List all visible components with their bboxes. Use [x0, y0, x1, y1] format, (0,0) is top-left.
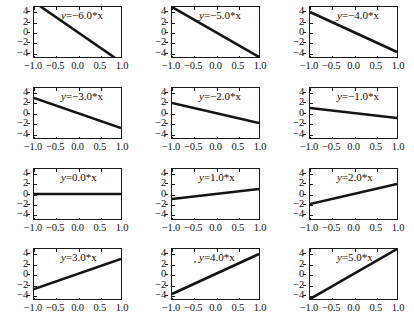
y-tick-mark-outer [303, 183, 306, 184]
x-tick-mark-bottom [101, 218, 102, 220]
y-axis-ticklabels: −4−2024 [0, 248, 30, 300]
y-tick-mark [172, 23, 175, 24]
y-tick-mark-outer [27, 204, 30, 205]
x-tick-mark-bottom [34, 218, 35, 220]
x-tick-mark [194, 7, 195, 10]
y-tick-mark [310, 54, 313, 55]
y-tick-mark-outer [303, 11, 306, 12]
y-tick-mark [172, 286, 175, 287]
y-tick-mark [172, 174, 175, 175]
x-tick-label: 0.0 [347, 141, 360, 152]
y-tick-mark [310, 174, 313, 175]
plot-panel-5: y=−2.0*x−4−2024−1.0−0.50.00.51.0 [138, 81, 276, 162]
x-tick-label: 1.0 [254, 222, 267, 233]
y-tick-mark-outer [27, 274, 30, 275]
data-line [34, 98, 121, 128]
y-tick-mark-outer [303, 113, 306, 114]
y-tick-mark [172, 205, 175, 206]
x-axis-ticklabels: −1.0−0.50.00.51.0 [309, 221, 398, 235]
x-tick-mark-bottom [217, 56, 218, 58]
x-tick-label: −1.0 [24, 222, 42, 233]
x-tick-mark-bottom [217, 298, 218, 300]
y-tick-mark [172, 124, 175, 125]
x-tick-mark [332, 88, 333, 91]
y-tick-mark-outer [27, 42, 30, 43]
y-tick-mark-outer [165, 102, 168, 103]
plot-panel-11: y=4.0*x−4−2024−1.0−0.50.00.51.0 [138, 242, 276, 323]
x-tick-label: 1.0 [116, 222, 129, 233]
x-tick-label: −0.5 [184, 222, 202, 233]
x-tick-mark-bottom [172, 298, 173, 300]
y-tick-mark-outer [27, 32, 30, 33]
x-tick-mark [239, 249, 240, 252]
y-axis-ticklabels: −4−2024 [0, 168, 30, 220]
x-tick-mark-bottom [217, 218, 218, 220]
x-tick-label: 0.0 [71, 141, 84, 152]
equation-annotation: y=5.0*x [337, 252, 373, 263]
equation-annotation: y=−1.0*x [337, 91, 379, 102]
y-tick-mark [34, 286, 37, 287]
y-axis-ticklabels: −4−2024 [138, 6, 168, 58]
x-tick-mark [332, 249, 333, 252]
x-tick-label: 0.0 [347, 60, 360, 71]
x-axis-ticklabels: −1.0−0.50.00.51.0 [171, 140, 260, 154]
x-tick-label: 0.0 [347, 222, 360, 233]
x-tick-label: 1.0 [392, 302, 405, 313]
y-tick-mark-outer [27, 123, 30, 124]
equation-rhs: 4.0*x [210, 251, 235, 263]
x-tick-label: 0.5 [93, 60, 106, 71]
equation-rhs: 2.0*x [348, 171, 373, 183]
x-tick-mark [332, 7, 333, 10]
x-tick-mark-bottom [310, 56, 311, 58]
x-tick-label: 1.0 [392, 141, 405, 152]
x-tick-mark-bottom [172, 218, 173, 220]
x-tick-mark-bottom [332, 137, 333, 139]
y-tick-mark-outer [27, 102, 30, 103]
y-tick-mark-outer [27, 134, 30, 135]
y-tick-mark [310, 275, 313, 276]
x-tick-label: 1.0 [392, 60, 405, 71]
equation-annotation: y=−2.0*x [199, 91, 241, 102]
y-tick-mark [34, 215, 37, 216]
x-tick-mark [172, 249, 173, 252]
equation-annotation: y=2.0*x [337, 172, 373, 183]
equation-rhs: 5.0*x [348, 251, 373, 263]
y-tick-mark-outer [165, 214, 168, 215]
equation-annotation: y=−3.0*x [61, 91, 103, 102]
y-tick-mark [34, 174, 37, 175]
x-tick-mark [194, 249, 195, 252]
equation-rhs: −2.0*x [210, 90, 241, 102]
x-tick-label: 0.0 [71, 60, 84, 71]
y-tick-mark-outer [165, 264, 168, 265]
y-tick-mark [172, 93, 175, 94]
y-tick-mark-outer [303, 194, 306, 195]
y-tick-mark [34, 135, 37, 136]
x-tick-label: −0.5 [46, 141, 64, 152]
x-tick-label: −0.5 [322, 222, 340, 233]
y-tick-mark-outer [165, 134, 168, 135]
x-tick-mark-bottom [239, 218, 240, 220]
y-tick-mark [310, 23, 313, 24]
x-tick-label: −1.0 [300, 60, 318, 71]
y-tick-mark [310, 265, 313, 266]
x-tick-mark-bottom [56, 298, 57, 300]
y-tick-mark [34, 43, 37, 44]
y-tick-mark-outer [303, 285, 306, 286]
y-tick-mark [34, 93, 37, 94]
y-tick-mark-outer [303, 92, 306, 93]
y-tick-mark [172, 135, 175, 136]
x-tick-mark [172, 7, 173, 10]
data-line [310, 108, 397, 118]
y-tick-mark-outer [165, 194, 168, 195]
y-tick-mark [310, 103, 313, 104]
y-tick-mark-outer [303, 295, 306, 296]
y-tick-mark [172, 215, 175, 216]
y-tick-mark [172, 54, 175, 55]
equation-annotation: y=0.0*x [61, 172, 97, 183]
x-tick-mark-bottom [377, 56, 378, 58]
x-tick-label: 0.5 [93, 302, 106, 313]
y-tick-mark [172, 296, 175, 297]
x-tick-label: −1.0 [300, 302, 318, 313]
y-tick-mark [310, 135, 313, 136]
x-tick-mark-bottom [355, 218, 356, 220]
